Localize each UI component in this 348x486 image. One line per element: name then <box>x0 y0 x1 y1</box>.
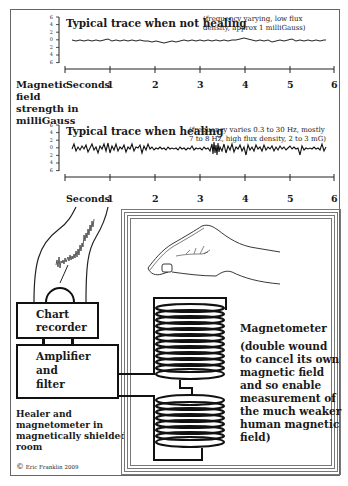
x-tick: 6 <box>331 193 338 204</box>
wire <box>118 373 126 375</box>
y-tick: 4 <box>45 22 53 27</box>
amplifier-label-line3: filter <box>36 378 65 390</box>
magnetometer-note-line: the much weaker <box>240 405 341 418</box>
copyright-text: Eric Franklin 2009 <box>26 464 79 470</box>
magnetometer-note-line: and so enable <box>240 379 341 392</box>
x-tick: 4 <box>242 193 249 204</box>
room-label-line: magnetometer in <box>16 420 127 431</box>
magnetometer-coil-icon <box>118 296 228 468</box>
y-label-line: Magnetic <box>16 79 79 91</box>
x-tick: 6 <box>331 79 338 90</box>
y-tick: 4 <box>45 52 53 57</box>
magnetometer-label: Magnetometer <box>240 322 327 335</box>
magnetometer-note-line: to cancel its own <box>240 353 341 366</box>
trace-not-healing <box>72 38 326 43</box>
y-tick: 2 <box>45 153 53 158</box>
copyright-icon: © <box>16 462 24 471</box>
x-tick: 4 <box>242 79 249 90</box>
y-tick: 2 <box>45 45 53 50</box>
magnetometer-note: (double wound to cancel its own magnetic… <box>240 340 341 444</box>
chart2-xlabel: Seconds <box>66 193 110 204</box>
x-tick: 1 <box>107 79 114 90</box>
y-tick: 2 <box>45 138 53 143</box>
x-tick: 5 <box>287 193 294 204</box>
y-tick: 0 <box>45 145 53 150</box>
x-tick: 2 <box>152 79 159 90</box>
magnetometer-note-line: (double wound <box>240 340 341 353</box>
magnetometer-note-line: magnetic field <box>240 366 341 379</box>
trace-healing <box>72 142 326 155</box>
y-label-line: field <box>16 91 79 103</box>
y-tick: 6 <box>45 168 53 173</box>
magnetometer-note-line: field) <box>240 431 341 444</box>
chart-recorder-box: Chart recorder <box>16 302 99 339</box>
amplifier-filter-box: Amplifier and filter <box>16 344 119 399</box>
room-label: Healer and magnetometer in magnetically … <box>16 409 127 453</box>
room-label-line: magnetically shielded <box>16 431 127 442</box>
paper-strip <box>0 205 130 305</box>
room-label-line: room <box>16 442 127 453</box>
room-label-line: Healer and <box>16 409 127 420</box>
wire <box>118 395 126 397</box>
x-tick: 2 <box>152 193 159 204</box>
chart1-note-line1: (frequency varying, low flux <box>203 15 302 23</box>
chart2-note-line1: (frequency varies 0.3 to 30 Hz, mostly <box>189 126 325 134</box>
y-tick: 6 <box>45 123 53 128</box>
chart1-note-line2: density, approx 1 milliGauss) <box>203 24 306 32</box>
y-tick: 4 <box>45 130 53 135</box>
chart-recorder-label-line1: Chart <box>36 308 69 320</box>
amplifier-label-line1: Amplifier <box>36 350 90 362</box>
y-tick: 4 <box>45 160 53 165</box>
magnetometer-note-line: human magnetic <box>240 418 341 431</box>
x-tick: 1 <box>107 193 114 204</box>
copyright: © Eric Franklin 2009 <box>16 462 78 471</box>
x-tick: 3 <box>197 79 204 90</box>
amplifier-label-line2: and <box>36 364 58 376</box>
x-tick: 3 <box>197 193 204 204</box>
x-tick: 5 <box>287 79 294 90</box>
y-tick: 0 <box>45 37 53 42</box>
magnetometer-note-line: measurement of <box>240 392 341 405</box>
y-tick: 6 <box>45 60 53 65</box>
y-tick: 2 <box>45 30 53 35</box>
chart2-note-line2: 7 to 8 Hz, high flux density, 2 to 3 mG) <box>189 135 326 143</box>
y-tick: 6 <box>45 15 53 20</box>
y-label-line: strength in <box>16 103 79 115</box>
hand-icon <box>146 220 286 292</box>
chart-recorder-label-line2: recorder <box>36 321 87 333</box>
